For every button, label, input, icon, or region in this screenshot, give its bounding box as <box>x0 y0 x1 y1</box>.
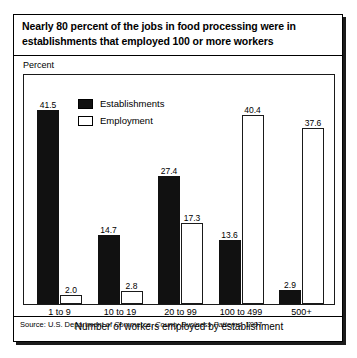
legend-item-establishments: Establishments <box>78 95 164 112</box>
bar-establishments: 41.5 <box>37 110 59 304</box>
bar-group: 13.640.4 <box>219 75 264 304</box>
page-title: Nearly 80 percent of the jobs in food pr… <box>22 19 336 48</box>
bar-group: 27.417.3 <box>158 75 203 304</box>
source-prefix: Source: U.S. Department of Commerce, <box>20 320 155 329</box>
figure-screenshot: Nearly 80 percent of the jobs in food pr… <box>0 0 357 358</box>
bar-value-label: 40.4 <box>244 105 261 115</box>
bar-value-label: 13.6 <box>221 230 238 240</box>
legend-item-employment: Employment <box>78 112 164 129</box>
source-note: Source: U.S. Department of Commerce, Cou… <box>20 320 262 329</box>
source-suffix: , 1997 <box>241 320 262 329</box>
bar-value-label: 14.7 <box>100 225 117 235</box>
bar-value-label: 17.3 <box>184 213 201 223</box>
legend-label-employment: Employment <box>100 115 153 126</box>
bar-employment: 40.4 <box>242 115 264 304</box>
legend-swatch-hollow-square-icon <box>78 116 93 126</box>
plot-frame: 41.52.014.72.827.417.313.640.42.937.6 Es… <box>23 74 335 305</box>
bar-employment: 2.8 <box>121 291 143 304</box>
bar-employment: 2.0 <box>60 295 82 304</box>
bar-value-label: 41.5 <box>40 100 57 110</box>
bar-value-label: 2.9 <box>284 280 296 290</box>
bar-establishments: 13.6 <box>219 240 241 304</box>
source-divider <box>14 316 342 317</box>
bar-establishments: 2.9 <box>279 290 301 304</box>
figure-box: Nearly 80 percent of the jobs in food pr… <box>13 14 343 342</box>
x-axis-tick-labels: 1 to 910 to 1920 to 99100 to 499500+ <box>23 307 335 321</box>
bar-value-label: 2.8 <box>126 281 138 291</box>
bar-employment: 37.6 <box>302 128 324 304</box>
chart-legend: Establishments Employment <box>78 95 164 129</box>
bar-group: 41.52.0 <box>37 75 82 304</box>
bar-establishments: 27.4 <box>158 176 180 304</box>
source-publication: County Business Patterns <box>155 320 241 329</box>
legend-label-establishments: Establishments <box>100 98 164 109</box>
bar-group: 2.937.6 <box>279 75 324 304</box>
plot-area: 41.52.014.72.827.417.313.640.42.937.6 <box>24 75 334 304</box>
bar-establishments: 14.7 <box>98 235 120 304</box>
bar-value-label: 37.6 <box>305 118 322 128</box>
bar-value-label: 2.0 <box>65 285 77 295</box>
legend-swatch-filled-square-icon <box>78 99 93 109</box>
bar-employment: 17.3 <box>181 223 203 304</box>
bar-value-label: 27.4 <box>161 166 178 176</box>
y-axis-caption: Percent <box>23 60 54 70</box>
title-block: Nearly 80 percent of the jobs in food pr… <box>14 15 342 56</box>
